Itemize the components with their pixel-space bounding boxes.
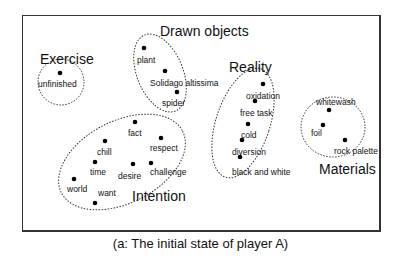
word-label: want	[98, 189, 116, 198]
word-dot	[327, 108, 332, 113]
word-dot	[321, 123, 326, 128]
word-dot	[261, 82, 266, 87]
word-dot	[142, 46, 147, 51]
word-label: cold	[241, 131, 257, 140]
word-dot	[343, 138, 348, 143]
category-label: Drawn objects	[160, 24, 249, 38]
word-label: free task	[240, 109, 273, 118]
word-dot	[58, 71, 63, 76]
word-dot	[133, 120, 138, 125]
word-label: spider	[162, 99, 185, 108]
word-label: foil	[311, 129, 322, 138]
word-label: whitewash	[316, 98, 356, 107]
word-dot	[72, 177, 77, 182]
word-label: desire	[118, 172, 141, 181]
word-label: unfinished	[38, 80, 77, 89]
word-label: diversion	[232, 148, 266, 157]
word-dot	[149, 161, 154, 166]
drawn-objects-cluster	[123, 26, 196, 119]
category-label: Intention	[132, 189, 186, 203]
word-dot	[246, 122, 251, 127]
word-label: black and white	[232, 168, 291, 177]
word-label: fact	[128, 129, 142, 138]
word-label: chill	[97, 148, 112, 157]
category-label: Reality	[229, 60, 272, 74]
word-label: plant	[137, 56, 155, 65]
figure-caption: (a: The initial state of player A)	[0, 236, 401, 251]
category-label: Exercise	[40, 52, 94, 66]
word-dot	[103, 139, 108, 144]
word-dot	[163, 69, 168, 74]
intention-cluster	[43, 95, 201, 230]
word-dot	[93, 201, 98, 206]
word-label: Solidago altissima	[150, 79, 219, 88]
word-label: rock palette	[334, 147, 378, 156]
word-label: respect	[150, 144, 178, 153]
category-label: Materials	[319, 162, 376, 176]
word-label: time	[90, 168, 106, 177]
word-label: world	[67, 185, 87, 194]
word-label: challenge	[150, 168, 186, 177]
word-dot	[131, 162, 136, 167]
word-label: oxidation	[246, 92, 280, 101]
word-dot	[93, 160, 98, 165]
word-dot	[175, 90, 180, 95]
word-dot	[159, 136, 164, 141]
